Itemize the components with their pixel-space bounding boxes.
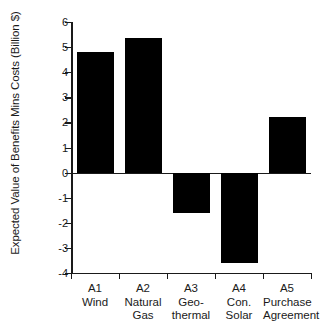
x-label-name-line: Geo-: [167, 296, 215, 310]
y-tick-label: 4: [62, 66, 68, 78]
x-tick-mark: [263, 273, 264, 279]
x-label-name-line: Con.: [215, 296, 263, 310]
y-tick-label: -1: [58, 192, 68, 204]
y-tick-label: 2: [62, 116, 68, 128]
x-tick-mark: [215, 273, 216, 279]
x-label-code: A4: [215, 282, 263, 296]
plot-area: 6543210-1-2-3-4: [71, 22, 311, 273]
y-axis-title: Expected Value of Benefits Mins Costs (B…: [4, 0, 26, 278]
x-tick-mark: [167, 273, 168, 279]
bar-a4: [221, 173, 258, 263]
y-tick-label: -4: [58, 267, 68, 279]
y-tick-label: 5: [62, 41, 68, 53]
bar-a5: [269, 117, 306, 172]
x-label-code: A1: [71, 282, 119, 296]
x-tick-mark: [119, 273, 120, 279]
bar-a2: [125, 38, 162, 172]
x-axis-label-a1: A1Wind: [71, 282, 119, 309]
x-label-code: A3: [167, 282, 215, 296]
bar-chart: Expected Value of Benefits Mins Costs (B…: [0, 0, 331, 328]
bar-a3: [173, 173, 210, 213]
x-label-code: A5: [263, 282, 311, 296]
x-tick-mark: [71, 273, 72, 279]
y-tick-label: 0: [62, 167, 68, 179]
y-tick-label: -2: [58, 217, 68, 229]
x-label-name-line: Gas: [119, 309, 167, 323]
x-axis-label-a2: A2NaturalGas: [119, 282, 167, 323]
x-label-name-line: Solar: [215, 309, 263, 323]
bar-a1: [77, 52, 114, 172]
y-tick-label: 3: [62, 91, 68, 103]
x-label-name-line: Wind: [71, 296, 119, 310]
y-tick-label: 1: [62, 142, 68, 154]
y-tick-label: -3: [58, 242, 68, 254]
x-tick-mark: [311, 273, 312, 279]
x-axis-label-a3: A3Geo-thermal: [167, 282, 215, 323]
x-label-name-line: Natural: [119, 296, 167, 310]
x-label-name-line: thermal: [167, 309, 215, 323]
x-label-code: A2: [119, 282, 167, 296]
x-label-name-line: Agreement: [263, 309, 311, 323]
x-label-name-line: Purchase: [263, 296, 311, 310]
x-axis-label-a5: A5PurchaseAgreement: [263, 282, 311, 323]
y-tick-label: 6: [62, 16, 68, 28]
x-axis-label-a4: A4Con.Solar: [215, 282, 263, 323]
